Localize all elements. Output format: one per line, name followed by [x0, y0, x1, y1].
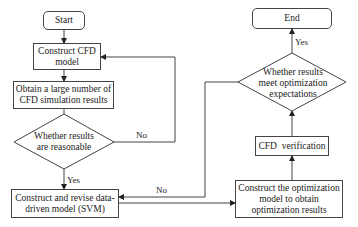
construct-cfd-label: Construct CFD model: [37, 46, 97, 68]
construct-svm-node: Construct and revise data-driven model (…: [11, 189, 119, 218]
flowchart: Start Construct CFD model Obtain a large…: [0, 0, 358, 227]
construct-svm-label: Construct and revise data-driven model (…: [13, 193, 117, 215]
expectations-no-label: No: [156, 185, 167, 195]
check-reasonable-label: Whether results are reasonable: [30, 131, 98, 153]
cfd-verification-node: CFD verification: [255, 136, 329, 156]
reasonable-no-label: No: [136, 130, 147, 140]
obtain-results-node: Obtain a large number of CFD simulation …: [13, 81, 114, 109]
start-label: Start: [55, 15, 73, 26]
cfd-verification-label: CFD verification: [258, 141, 325, 152]
optimization-model-label: Construct the optimization model to obta…: [237, 183, 341, 216]
check-expectations-label: Whether results meet optimization expect…: [256, 67, 330, 100]
expectations-yes-label: Yes: [295, 37, 308, 47]
check-reasonable-node: Whether results are reasonable: [30, 128, 98, 156]
reasonable-yes-label: Yes: [67, 175, 80, 185]
end-label: End: [284, 13, 299, 24]
start-node: Start: [43, 11, 85, 30]
check-expectations-node: Whether results meet optimization expect…: [256, 66, 330, 100]
end-node: End: [252, 8, 332, 29]
optimization-model-node: Construct the optimization model to obta…: [235, 180, 343, 218]
obtain-results-label: Obtain a large number of CFD simulation …: [15, 84, 113, 106]
construct-cfd-node: Construct CFD model: [33, 43, 101, 70]
